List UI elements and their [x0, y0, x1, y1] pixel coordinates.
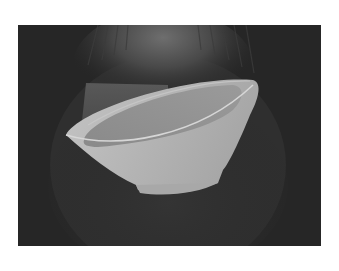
- figure-image: [18, 25, 321, 246]
- page: [0, 0, 339, 271]
- scan-with-bowl-render: [18, 25, 321, 246]
